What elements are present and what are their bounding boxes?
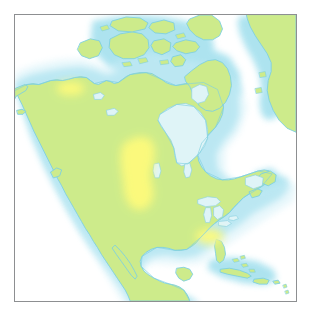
highlight-patch-yukon[interactable] [57,82,85,96]
highlight-patch-southeast[interactable] [196,229,224,245]
map-canvas[interactable] [15,15,296,301]
map-figure [0,0,312,320]
map-frame [14,14,297,302]
water-lake-winnipeg[interactable] [153,163,161,178]
landmass-hispaniola[interactable] [253,278,269,284]
landmass-victoria[interactable] [109,32,149,59]
